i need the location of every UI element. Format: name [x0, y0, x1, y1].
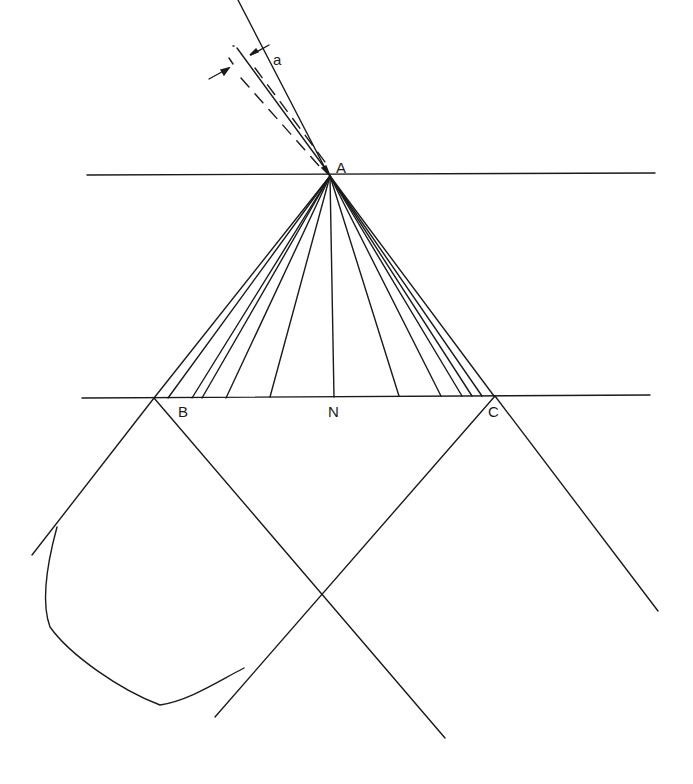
diffracted-rays: [154, 176, 494, 398]
boundary-curve: [45, 527, 244, 705]
incident-beam-tick: [229, 58, 233, 64]
label-point-c: C: [488, 404, 499, 419]
label-point-a: A: [336, 160, 346, 175]
diagram-canvas: a A B N C: [0, 0, 693, 784]
incident-beam-center: [237, 48, 327, 171]
label-point-b: B: [178, 404, 188, 419]
line-through-c-right: [495, 396, 658, 611]
line-through-c-left: [215, 396, 495, 717]
label-a: a: [273, 52, 281, 67]
line-through-b-left: [32, 398, 154, 555]
width-arrowhead-right: [250, 49, 258, 55]
bottom-horizontal-line: [82, 395, 650, 398]
top-horizontal-line: [87, 173, 655, 175]
incident-beam-edge-left: [241, 78, 320, 167]
line-through-b-right: [154, 398, 445, 738]
width-arrowhead-left: [221, 68, 229, 75]
label-point-n: N: [328, 404, 339, 419]
geometry-drawing: [0, 0, 693, 784]
